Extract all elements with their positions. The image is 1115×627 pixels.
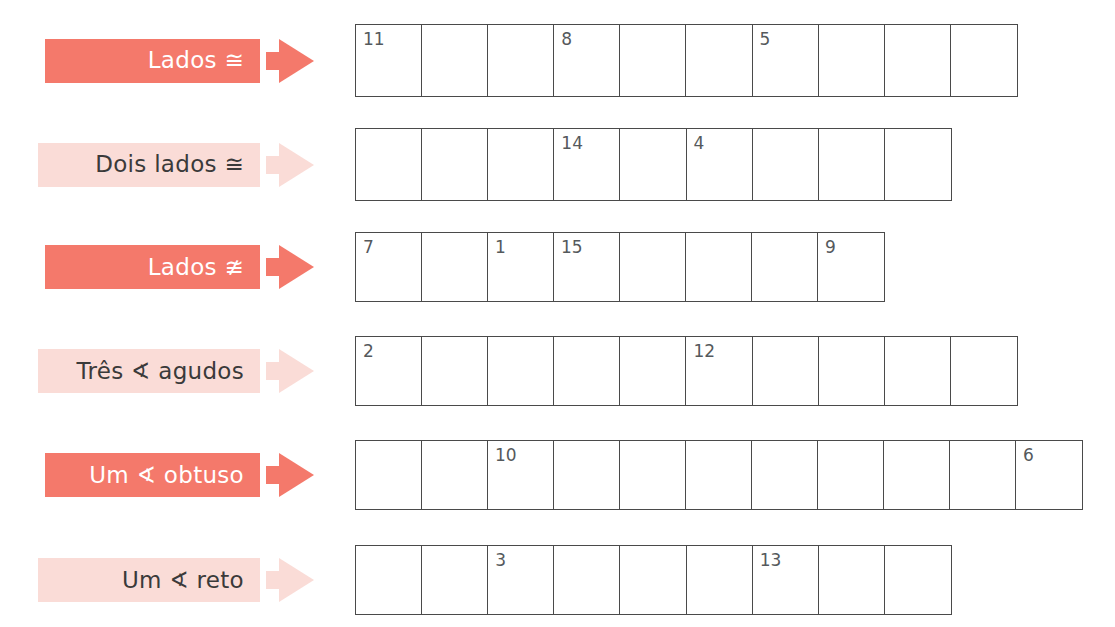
answer-cell[interactable] <box>620 25 686 96</box>
category-label-bar: Três ∢ agudos <box>38 349 260 393</box>
answer-cell[interactable]: 8 <box>554 25 620 96</box>
answer-cell[interactable] <box>422 546 488 614</box>
answer-cell[interactable] <box>488 129 554 200</box>
answer-grid-5: 106 <box>355 440 1083 510</box>
arrow-right-icon <box>266 349 314 393</box>
answer-cell[interactable] <box>753 129 819 200</box>
answer-cell[interactable] <box>422 337 488 405</box>
arrow-tip <box>279 558 314 602</box>
answer-cell-value: 9 <box>825 238 836 257</box>
category-label-bar: Um ∢ reto <box>38 558 260 602</box>
category-label-bar: Lados ≅ <box>45 39 260 83</box>
answer-cell[interactable] <box>950 441 1016 509</box>
answer-cell[interactable] <box>885 546 951 614</box>
category-label-text: Um ∢ obtuso <box>89 464 244 487</box>
category-label-text: Lados ≅ <box>148 49 244 72</box>
category-label-arrow-4: Três ∢ agudos <box>38 349 314 393</box>
answer-grid-4: 212 <box>355 336 1018 406</box>
answer-cell[interactable] <box>884 441 950 509</box>
answer-grid-1: 1185 <box>355 24 1018 97</box>
answer-cell[interactable]: 10 <box>488 441 554 509</box>
answer-grid-2: 144 <box>355 128 952 201</box>
answer-cell[interactable] <box>356 129 422 200</box>
answer-cell[interactable] <box>488 25 554 96</box>
answer-cell[interactable]: 2 <box>356 337 422 405</box>
answer-cell[interactable] <box>554 337 620 405</box>
category-label-arrow-5: Um ∢ obtuso <box>45 453 314 497</box>
answer-cell[interactable] <box>885 337 951 405</box>
answer-cell[interactable] <box>686 233 752 301</box>
answer-cell[interactable]: 4 <box>687 129 753 200</box>
answer-cell[interactable] <box>422 129 488 200</box>
category-label-arrow-3: Lados ≇ <box>45 245 314 289</box>
answer-cell[interactable] <box>753 337 819 405</box>
answer-cell-value: 15 <box>561 238 583 257</box>
answer-cell-value: 2 <box>363 342 374 361</box>
answer-cell[interactable] <box>620 546 686 614</box>
answer-cell[interactable]: 12 <box>686 337 752 405</box>
answer-cell[interactable] <box>686 25 752 96</box>
answer-cell[interactable]: 1 <box>488 233 554 301</box>
answer-cell[interactable] <box>951 337 1017 405</box>
answer-cell[interactable]: 3 <box>488 546 554 614</box>
answer-cell[interactable] <box>819 25 885 96</box>
answer-cell[interactable] <box>819 546 885 614</box>
arrow-right-icon <box>266 143 314 187</box>
arrow-tip <box>279 453 314 497</box>
classification-worksheet: Lados ≅1185Dois lados ≅144Lados ≇71159Tr… <box>0 0 1115 627</box>
answer-cell[interactable] <box>356 546 422 614</box>
answer-cell[interactable]: 5 <box>753 25 819 96</box>
answer-cell[interactable] <box>422 233 488 301</box>
answer-cell[interactable]: 14 <box>554 129 620 200</box>
category-label-text: Um ∢ reto <box>122 569 244 592</box>
answer-cell-value: 11 <box>363 30 385 49</box>
answer-cell-value: 4 <box>694 134 705 153</box>
answer-cell[interactable] <box>356 441 422 509</box>
category-label-text: Três ∢ agudos <box>77 360 244 383</box>
category-label-bar: Dois lados ≅ <box>38 143 260 187</box>
arrow-tip <box>279 349 314 393</box>
answer-cell[interactable] <box>885 25 951 96</box>
answer-grid-6: 313 <box>355 545 952 615</box>
answer-grid-3: 71159 <box>355 232 885 302</box>
answer-cell[interactable] <box>951 25 1017 96</box>
category-label-bar: Um ∢ obtuso <box>45 453 260 497</box>
answer-cell-value: 13 <box>760 551 782 570</box>
answer-cell[interactable] <box>687 546 753 614</box>
answer-cell[interactable] <box>554 546 620 614</box>
category-label-text: Lados ≇ <box>148 256 244 279</box>
arrow-tip <box>279 143 314 187</box>
arrow-tip <box>279 245 314 289</box>
answer-cell[interactable]: 15 <box>554 233 620 301</box>
answer-cell[interactable] <box>422 441 488 509</box>
answer-cell[interactable] <box>620 441 686 509</box>
answer-cell[interactable]: 13 <box>753 546 819 614</box>
answer-cell[interactable] <box>819 129 885 200</box>
answer-cell[interactable] <box>422 25 488 96</box>
arrow-tip <box>279 39 314 83</box>
answer-cell[interactable] <box>620 233 686 301</box>
answer-cell[interactable]: 6 <box>1016 441 1082 509</box>
arrow-right-icon <box>266 39 314 83</box>
answer-cell[interactable]: 11 <box>356 25 422 96</box>
answer-cell-value: 6 <box>1023 446 1034 465</box>
answer-cell[interactable] <box>488 337 554 405</box>
answer-cell[interactable] <box>752 441 818 509</box>
answer-cell[interactable]: 7 <box>356 233 422 301</box>
answer-cell[interactable] <box>819 337 885 405</box>
category-label-arrow-2: Dois lados ≅ <box>38 143 314 187</box>
category-label-arrow-6: Um ∢ reto <box>38 558 314 602</box>
category-label-arrow-1: Lados ≅ <box>45 39 314 83</box>
answer-cell[interactable] <box>554 441 620 509</box>
answer-cell[interactable]: 9 <box>818 233 884 301</box>
arrow-right-icon <box>266 558 314 602</box>
answer-cell-value: 5 <box>760 30 771 49</box>
answer-cell[interactable] <box>885 129 951 200</box>
answer-cell-value: 3 <box>495 551 506 570</box>
answer-cell[interactable] <box>620 337 686 405</box>
answer-cell[interactable] <box>818 441 884 509</box>
answer-cell-value: 10 <box>495 446 517 465</box>
answer-cell[interactable] <box>620 129 686 200</box>
answer-cell[interactable] <box>752 233 818 301</box>
answer-cell[interactable] <box>686 441 752 509</box>
